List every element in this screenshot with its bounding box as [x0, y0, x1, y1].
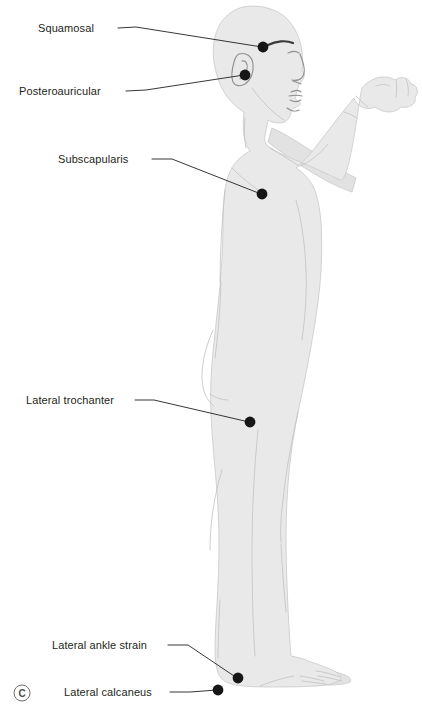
- landmark-dot-lateral-trochanter[interactable]: [245, 417, 256, 428]
- panel-letter-marker: C: [14, 685, 30, 701]
- panel-letter-label: C: [18, 688, 25, 699]
- landmark-dot-lateral-calcaneus[interactable]: [213, 685, 224, 696]
- body-mass-shape: [211, 6, 418, 687]
- label-squamosal: Squamosal: [38, 22, 94, 34]
- landmark-dot-lateral-ankle-strain[interactable]: [233, 673, 244, 684]
- leader-line-lateral-calcaneus: [170, 690, 217, 692]
- body-silhouette-group: [202, 6, 417, 687]
- anatomical-figure-panel: Squamosal Posteroauricular Subscapularis…: [0, 0, 422, 719]
- label-lateral-trochanter: Lateral trochanter: [26, 394, 114, 406]
- landmark-dot-squamosal[interactable]: [258, 42, 269, 53]
- label-lateral-calcaneus: Lateral calcaneus: [64, 686, 152, 698]
- landmark-labels-group: Squamosal Posteroauricular Subscapularis…: [19, 22, 152, 698]
- lateral-body-illustration: Squamosal Posteroauricular Subscapularis…: [0, 0, 422, 719]
- label-subscapularis: Subscapularis: [58, 153, 129, 165]
- landmark-dot-posteroauricular[interactable]: [240, 70, 251, 81]
- landmark-dot-subscapularis[interactable]: [257, 189, 268, 200]
- label-posteroauricular: Posteroauricular: [19, 85, 101, 97]
- label-lateral-ankle-strain: Lateral ankle strain: [52, 639, 147, 651]
